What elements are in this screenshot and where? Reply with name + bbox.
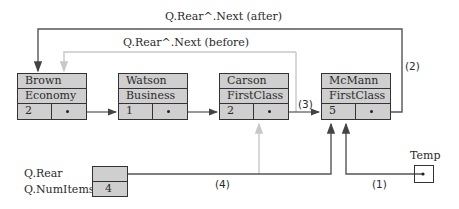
q-numitems-label: Q.NumItems [24, 184, 94, 196]
node-name: Carson [220, 74, 288, 89]
node-count: 2 [18, 104, 52, 119]
temp-pointer-box [414, 165, 434, 183]
node-class: FirstClass [322, 89, 390, 104]
node-name: Brown [18, 74, 86, 89]
q-rear-label: Q.Rear [24, 168, 63, 180]
node-count: 5 [322, 104, 356, 119]
node-name: Watson [119, 74, 187, 89]
step-2-label: (2) [405, 60, 420, 72]
temp-label: Temp [410, 150, 440, 162]
node-count: 2 [220, 104, 254, 119]
node-class: Economy [18, 89, 86, 104]
step-1-label: (1) [372, 178, 387, 190]
node-watson: Watson Business 1 [118, 73, 188, 120]
after-label: Q.Rear^.Next (after) [165, 11, 282, 23]
next-pointer [254, 104, 288, 119]
node-count: 1 [119, 104, 153, 119]
node-mcmann: McMann FirstClass 5 [321, 73, 391, 120]
step-4-label: (4) [215, 178, 230, 190]
before-label: Q.Rear^.Next (before) [123, 37, 249, 49]
q-rear-field [92, 166, 128, 182]
node-name: McMann [322, 74, 390, 89]
next-pointer [356, 104, 390, 119]
node-carson: Carson FirstClass 2 [219, 73, 289, 120]
node-brown: Brown Economy 2 [17, 73, 87, 120]
q-numitems-field: 4 [92, 181, 128, 197]
node-class: FirstClass [220, 89, 288, 104]
next-pointer [153, 104, 187, 119]
step-3-label: (3) [298, 98, 313, 110]
next-pointer [52, 104, 86, 119]
node-class: Business [119, 89, 187, 104]
